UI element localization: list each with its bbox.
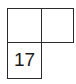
clue-number: 17 [8, 47, 41, 73]
grid-cell-r0-c1[interactable] [41, 8, 74, 43]
grid-cell-r0-c0[interactable] [7, 8, 42, 43]
grid-cell-r1-c0[interactable]: 17 [7, 42, 42, 79]
